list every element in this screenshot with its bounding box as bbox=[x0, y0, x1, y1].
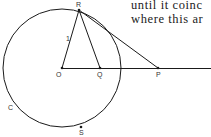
point-o bbox=[61, 67, 64, 70]
segment-r-q bbox=[79, 10, 100, 68]
label-r: R bbox=[76, 1, 81, 8]
label-s: S bbox=[79, 129, 84, 136]
point-r bbox=[78, 9, 81, 12]
point-p bbox=[157, 67, 160, 70]
point-q bbox=[99, 67, 102, 70]
label-c: C bbox=[8, 104, 13, 111]
label-o: O bbox=[56, 71, 62, 78]
point-s bbox=[80, 126, 83, 129]
geometry-diagram: R 1 O Q P C S bbox=[0, 0, 211, 137]
label-q: Q bbox=[97, 71, 103, 79]
tangent-r-p bbox=[79, 10, 158, 68]
label-radius-1: 1 bbox=[66, 35, 70, 42]
segment-o-r bbox=[62, 10, 79, 68]
label-p: P bbox=[156, 71, 161, 78]
